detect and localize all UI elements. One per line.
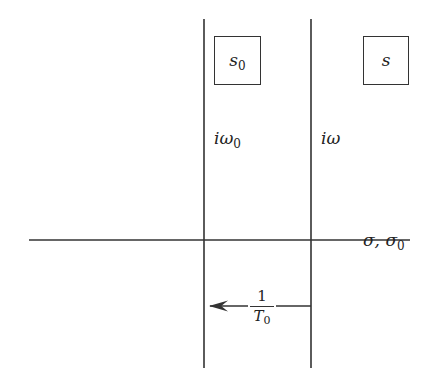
box-s0: s0	[214, 36, 261, 85]
box-s-label: s	[364, 52, 408, 69]
fraction-denominator: T0	[250, 309, 274, 326]
box-s0-label: s0	[215, 52, 260, 72]
fraction-numerator: 1	[250, 289, 274, 304]
label-i-omega: iω	[321, 130, 340, 147]
diagram-canvas: s0 s iω0 iω σ, σ0 1 T0	[0, 0, 432, 390]
label-i-omega0: iω0	[214, 130, 241, 150]
axis-label-sigma: σ, σ0	[363, 232, 405, 252]
width-fraction: 1 T0	[250, 289, 274, 326]
box-s: s	[363, 36, 409, 85]
